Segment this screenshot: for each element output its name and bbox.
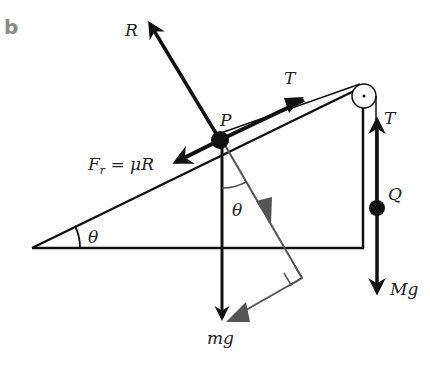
tension-vertical-label: T bbox=[384, 108, 397, 128]
pulley bbox=[352, 84, 376, 108]
angle-label-incline: θ bbox=[88, 227, 98, 247]
angle-label-weight: θ bbox=[232, 200, 242, 220]
particle-q bbox=[369, 200, 385, 216]
friction-label: Fr = μR bbox=[87, 154, 154, 177]
particle-q-label: Q bbox=[388, 184, 402, 204]
angle-arc-weight bbox=[222, 182, 246, 188]
particle-p-label: P bbox=[219, 110, 232, 130]
tension-incline-label: T bbox=[284, 68, 297, 88]
panel-label: b bbox=[4, 15, 18, 39]
weight-q-label: Mg bbox=[389, 279, 418, 299]
reaction-force-arrow bbox=[150, 24, 220, 140]
weight-p-label: mg bbox=[207, 328, 234, 348]
particle-p bbox=[211, 131, 229, 149]
incline-triangle bbox=[32, 90, 364, 248]
weight-component-arrows bbox=[222, 140, 302, 322]
reaction-label: R bbox=[124, 20, 138, 40]
inclined-plane-diagram: b θ R T Fr = μR mg θ P T bbox=[0, 0, 430, 367]
angle-arc-incline bbox=[75, 226, 80, 248]
